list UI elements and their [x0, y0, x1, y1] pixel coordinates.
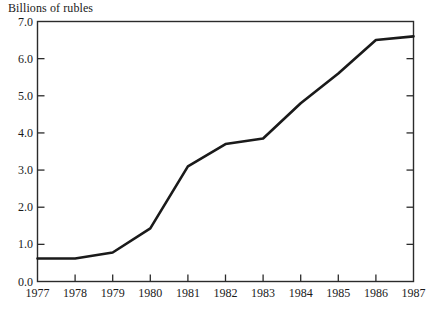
y-axis-tick-label: 2.0: [3, 201, 33, 213]
y-axis-ticks-right: [407, 59, 414, 245]
y-axis-tick-label: 7.0: [3, 16, 33, 28]
x-axis-tick-labels: 1977197819791980198119821983198419851986…: [0, 286, 430, 308]
plot-frame: [38, 22, 414, 282]
y-axis-tick-label: 3.0: [3, 164, 33, 176]
line-chart-plot: [0, 0, 430, 310]
y-axis-tick-label: 5.0: [3, 90, 33, 102]
data-series-line: [38, 36, 414, 258]
y-axis-ticks: [38, 59, 45, 245]
y-axis-tick-label: 4.0: [3, 127, 33, 139]
y-axis-tick-labels: 0.01.02.03.04.05.06.07.0: [0, 0, 33, 310]
x-axis-tick-label: 1987: [392, 286, 430, 300]
y-axis-tick-label: 6.0: [3, 53, 33, 65]
y-axis-tick-label: 1.0: [3, 238, 33, 250]
chart-figure: Billions of rubles 0.01.02.03.04.05.06.0…: [0, 0, 430, 310]
x-axis-ticks: [75, 275, 376, 282]
